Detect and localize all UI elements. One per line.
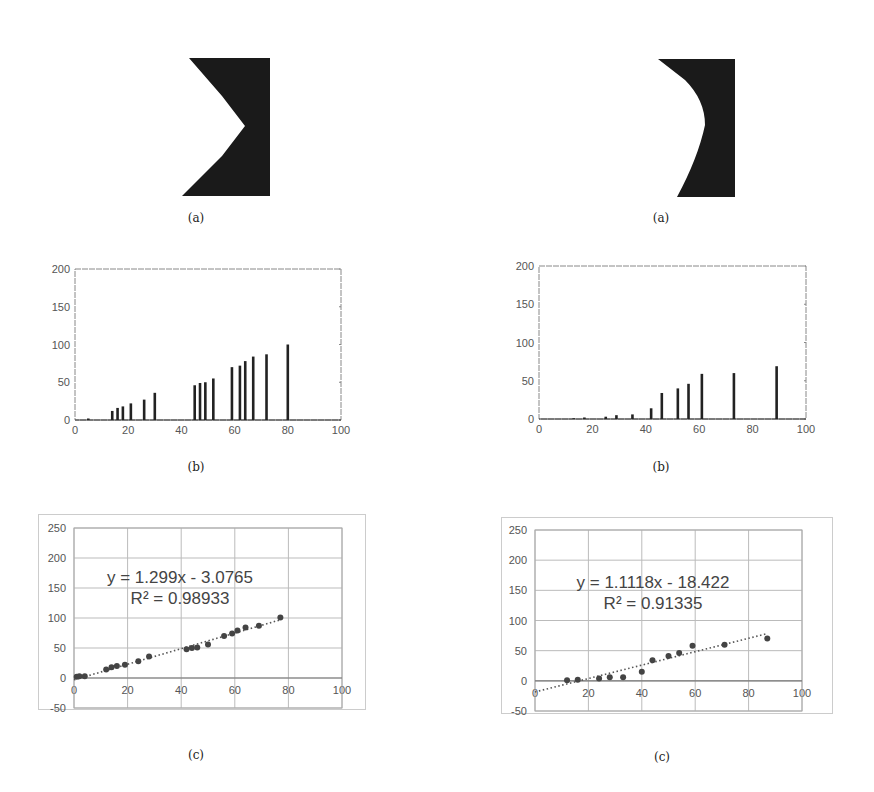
x-tick-label: 20 [582, 687, 594, 699]
y-tick-label: 0 [521, 675, 527, 687]
data-point [764, 636, 770, 642]
y-tick-label: 100 [509, 615, 527, 627]
data-point [607, 674, 613, 680]
y-tick-label: 200 [509, 554, 527, 566]
data-point [722, 642, 728, 648]
caption-right-c: (c) [642, 750, 682, 764]
data-point [564, 677, 570, 683]
data-point [620, 674, 626, 680]
data-point [666, 653, 672, 659]
data-point [690, 643, 696, 649]
scatter-chart-right: -50050100150200250020406080100y = 1.1118… [0, 0, 874, 792]
data-point [596, 675, 602, 681]
y-tick-label: 50 [515, 645, 527, 657]
y-tick-label: 250 [509, 524, 527, 536]
x-tick-label: 60 [689, 687, 701, 699]
caption-left-c: (c) [176, 748, 216, 762]
x-tick-label: 40 [636, 687, 648, 699]
data-point [575, 677, 581, 683]
y-tick-label: 150 [509, 584, 527, 596]
trendline-equation: y = 1.1118x - 18.422 [577, 573, 730, 592]
data-point [676, 650, 682, 656]
x-tick-label: 80 [742, 687, 754, 699]
data-point [639, 669, 645, 675]
y-tick-label: -50 [511, 705, 527, 717]
r-squared-label: R² = 0.91335 [604, 594, 703, 613]
data-point [649, 657, 655, 663]
